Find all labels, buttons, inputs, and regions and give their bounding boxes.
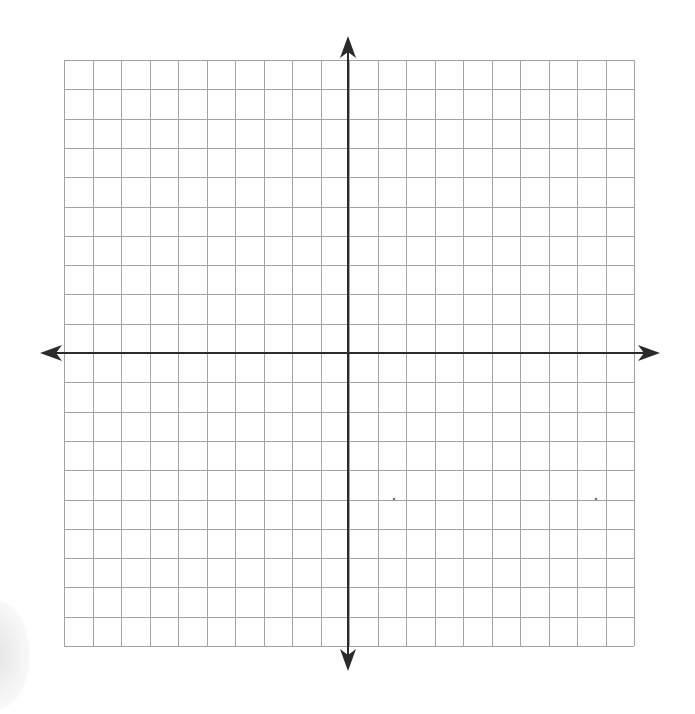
coordinate-plane (0, 0, 695, 714)
stray-dot (595, 498, 598, 501)
stray-dot (393, 498, 396, 501)
stray-marks (393, 498, 598, 501)
